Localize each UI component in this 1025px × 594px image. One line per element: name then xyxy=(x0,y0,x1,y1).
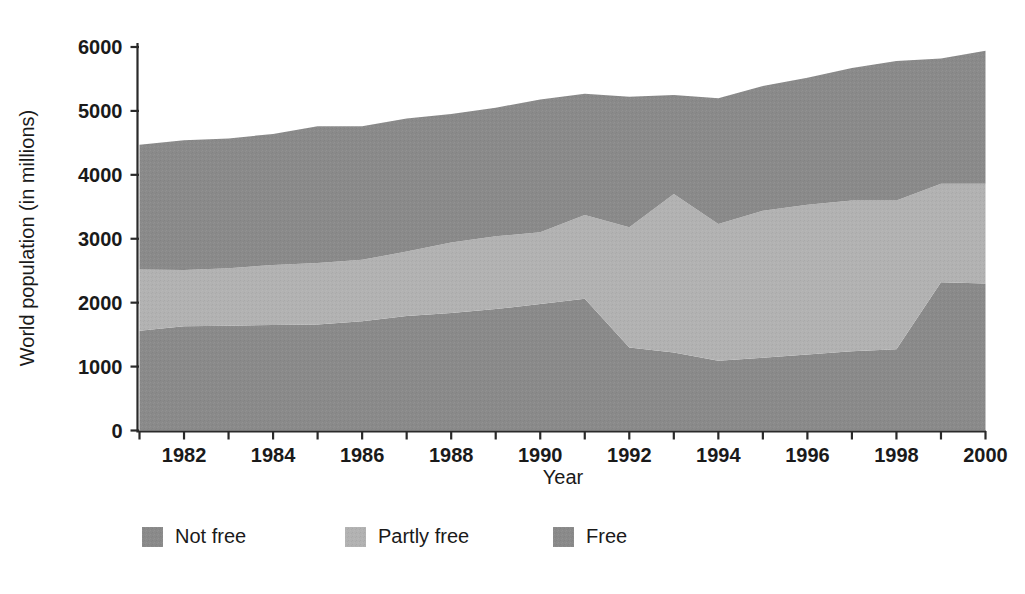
y-tick-label: 1000 xyxy=(78,356,123,378)
y-tick-label: 4000 xyxy=(78,164,123,186)
legend-label: Partly free xyxy=(378,525,469,547)
y-tick-label: 0 xyxy=(111,420,122,442)
chart-figure: 0100020003000400050006000 19821984198619… xyxy=(0,0,1025,594)
legend-item-not-free: Not free xyxy=(142,525,246,547)
legend-label: Not free xyxy=(175,525,246,547)
legend-item-free: Free xyxy=(553,525,627,547)
x-tick-label: 1986 xyxy=(340,444,385,466)
legend-swatch-texture xyxy=(142,527,163,547)
x-tick-label: 1988 xyxy=(429,444,474,466)
x-tick-label: 1982 xyxy=(162,444,207,466)
y-tick-label: 6000 xyxy=(78,36,123,58)
x-tick-label: 1990 xyxy=(518,444,563,466)
chart-legend: Not freePartly freeFree xyxy=(142,525,627,547)
x-tick-label: 1994 xyxy=(696,444,741,466)
legend-item-partly-free: Partly free xyxy=(345,525,469,547)
stacked-area-chart: 0100020003000400050006000 19821984198619… xyxy=(0,0,1025,594)
legend-swatch-texture xyxy=(345,527,366,547)
y-tick-label: 5000 xyxy=(78,100,123,122)
legend-swatch-texture xyxy=(553,527,574,547)
y-tick-label: 3000 xyxy=(78,228,123,250)
x-tick-label: 2000 xyxy=(963,444,1008,466)
x-tick-label: 1984 xyxy=(251,444,296,466)
x-tick-label: 1992 xyxy=(607,444,652,466)
y-axis-title: World population (in millions) xyxy=(16,110,38,366)
y-tick-label: 2000 xyxy=(78,292,123,314)
x-tick-label: 1998 xyxy=(874,444,919,466)
x-tick-label: 1996 xyxy=(785,444,830,466)
x-axis-title: Year xyxy=(543,466,584,488)
legend-label: Free xyxy=(586,525,627,547)
